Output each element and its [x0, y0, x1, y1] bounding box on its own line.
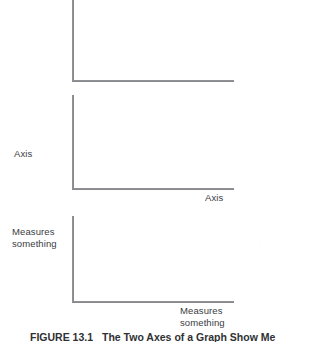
- chart-3-y-axis-label: Measures something: [12, 226, 57, 249]
- chart-3-y-axis-line: [72, 216, 74, 303]
- figure-caption-number: FIGURE 13.1: [30, 331, 93, 342]
- chart-1-axes: [72, 0, 234, 82]
- chart-2-y-axis-label: Axis: [14, 148, 32, 160]
- figure-caption-text: The Two Axes of a Graph Show Me: [102, 331, 275, 342]
- chart-1-y-axis-line: [72, 0, 74, 82]
- chart-3-x-axis-label: Measures something: [180, 305, 225, 328]
- chart-2-x-axis-line: [72, 188, 234, 190]
- figure-page: Axis Axis Measures something Measures so…: [0, 0, 309, 342]
- chart-1-x-axis-line: [72, 80, 234, 82]
- figure-caption: FIGURE 13.1The Two Axes of a Graph Show …: [30, 331, 309, 342]
- chart-2-x-axis-label: Axis: [205, 192, 223, 204]
- chart-3-x-axis-line: [72, 301, 234, 303]
- chart-2-axes: [72, 95, 234, 190]
- chart-3-axes: [72, 216, 234, 303]
- chart-2-y-axis-line: [72, 95, 74, 190]
